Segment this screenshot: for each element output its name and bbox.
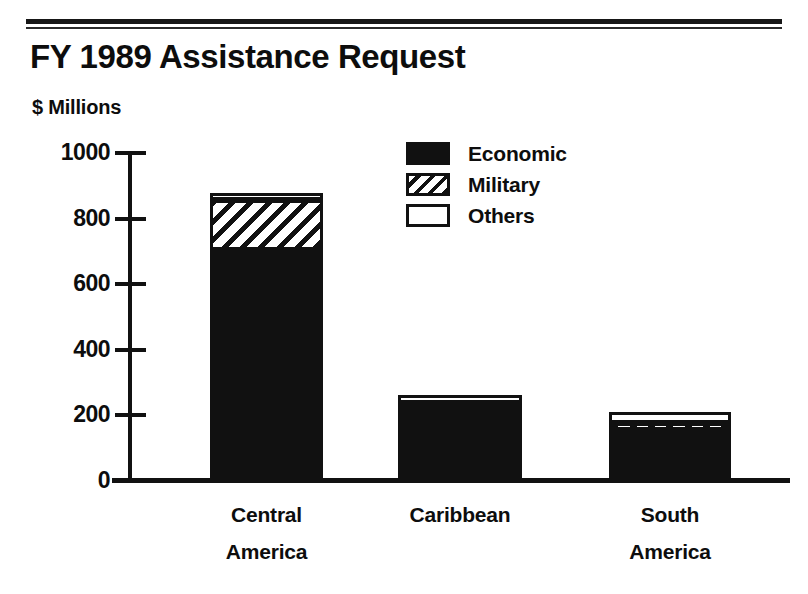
legend-item-economic[interactable]: Economic bbox=[406, 138, 567, 169]
legend: Economic Military Others bbox=[406, 138, 567, 231]
legend-label-economic: Economic bbox=[468, 142, 567, 166]
bar-segment-others bbox=[609, 412, 731, 422]
x-axis-label-south: South America bbox=[554, 497, 786, 571]
legend-item-military[interactable]: Military bbox=[406, 169, 567, 200]
plot-area: 10008006004002000 Central AmericaCaribbe… bbox=[0, 0, 808, 594]
bar-segment-economic bbox=[210, 250, 323, 481]
legend-swatch-economic-icon bbox=[406, 142, 450, 165]
legend-label-military: Military bbox=[468, 173, 540, 197]
bar-segment-others bbox=[210, 193, 323, 200]
y-axis-tick-label-1000: 1000 bbox=[61, 141, 110, 164]
y-axis-tick-label-wrap: 400 bbox=[14, 338, 110, 361]
y-axis-tick-label-600: 600 bbox=[73, 272, 110, 295]
bar-segment-others bbox=[398, 395, 522, 403]
y-axis-tick-600 bbox=[115, 282, 146, 286]
x-axis-label-caribbean: Caribbean bbox=[343, 497, 577, 534]
legend-label-others: Others bbox=[468, 204, 535, 228]
bar-segment-military bbox=[609, 423, 731, 430]
legend-swatch-others-icon bbox=[406, 204, 450, 227]
y-axis-tick-label-wrap: 600 bbox=[14, 272, 110, 295]
y-axis-tick-0 bbox=[115, 479, 146, 483]
y-axis-tick-400 bbox=[115, 348, 146, 352]
y-axis-tick-200 bbox=[115, 413, 146, 417]
y-axis-tick-label-wrap: 800 bbox=[14, 207, 110, 230]
bar-central-america[interactable] bbox=[210, 193, 323, 481]
y-axis-tick-label-wrap: 0 bbox=[14, 469, 110, 492]
legend-item-others[interactable]: Others bbox=[406, 200, 567, 231]
bar-caribbean[interactable] bbox=[398, 395, 522, 481]
y-axis-tick-label-0: 0 bbox=[98, 469, 110, 492]
chart-page: FY 1989 Assistance Request $ Millions 10… bbox=[0, 0, 808, 594]
bar-segment-economic bbox=[398, 409, 522, 481]
bar-segment-military bbox=[210, 200, 323, 250]
y-axis-line bbox=[128, 152, 132, 483]
y-axis-tick-label-wrap: 1000 bbox=[14, 141, 110, 164]
bar-south-america[interactable] bbox=[609, 412, 731, 481]
y-axis-tick-label-200: 200 bbox=[73, 403, 110, 426]
y-axis-tick-1000 bbox=[115, 151, 146, 155]
y-axis-tick-label-800: 800 bbox=[73, 207, 110, 230]
bar-segment-military bbox=[398, 403, 522, 410]
y-axis-tick-label-400: 400 bbox=[73, 338, 110, 361]
y-axis-tick-label-wrap: 200 bbox=[14, 403, 110, 426]
legend-swatch-military-icon bbox=[406, 173, 450, 196]
y-axis-tick-800 bbox=[115, 217, 146, 221]
bar-segment-economic bbox=[609, 430, 731, 481]
